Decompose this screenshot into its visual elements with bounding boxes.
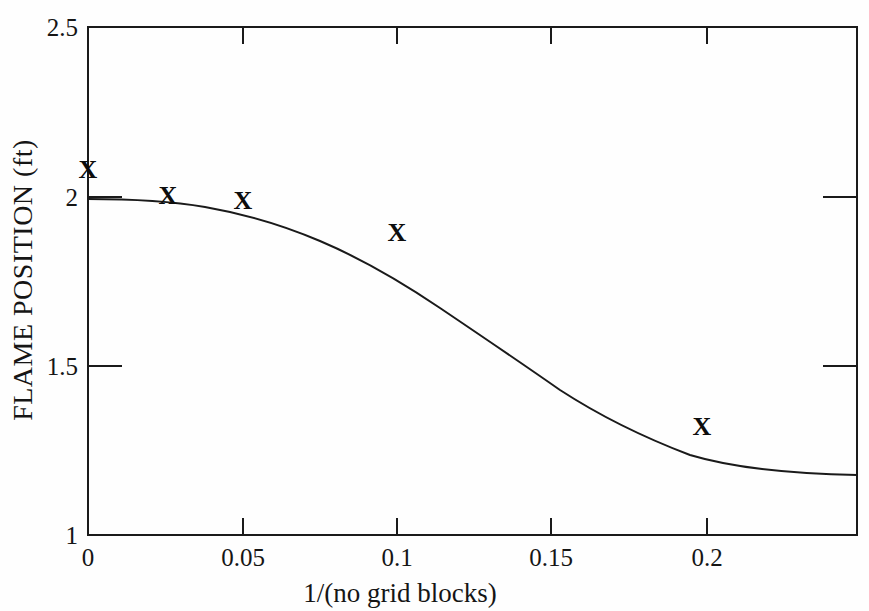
fitted-curve xyxy=(88,199,857,475)
x-tick-label-0.05: 0.05 xyxy=(221,544,265,571)
y-tick-label-1.5: 1.5 xyxy=(47,353,78,380)
y-axis-ticks-right xyxy=(823,197,857,366)
flame-position-chart: X X X X X 2.5 2 1.5 1 0 0.05 0.1 0.15 0.… xyxy=(0,0,869,611)
data-point-markers: X X X X X xyxy=(79,155,712,441)
y-axis-title: FLAME POSITION (ft) xyxy=(7,139,38,421)
data-marker-3: X xyxy=(388,218,407,247)
y-tick-label-2.5: 2.5 xyxy=(47,14,78,41)
data-marker-1: X xyxy=(159,181,178,210)
x-axis-ticks xyxy=(243,518,707,535)
x-tick-label-0: 0 xyxy=(82,544,95,571)
y-tick-label-2: 2 xyxy=(66,184,79,211)
y-axis-tick-labels: 2.5 2 1.5 1 xyxy=(47,14,78,549)
chart-page: X X X X X 2.5 2 1.5 1 0 0.05 0.1 0.15 0.… xyxy=(0,0,869,611)
x-axis-ticks-top xyxy=(243,27,707,44)
data-marker-2: X xyxy=(234,186,253,215)
x-tick-label-0.15: 0.15 xyxy=(529,544,573,571)
data-marker-0: X xyxy=(79,155,98,184)
x-axis-tick-labels: 0 0.05 0.1 0.15 0.2 xyxy=(82,544,723,571)
x-axis-title: 1/(no grid blocks) xyxy=(303,578,496,608)
y-axis-ticks xyxy=(88,197,122,366)
data-marker-4: X xyxy=(693,412,712,441)
y-tick-label-1: 1 xyxy=(66,522,79,549)
x-tick-label-0.2: 0.2 xyxy=(691,544,722,571)
plot-frame xyxy=(88,27,857,535)
x-tick-label-0.1: 0.1 xyxy=(381,544,412,571)
